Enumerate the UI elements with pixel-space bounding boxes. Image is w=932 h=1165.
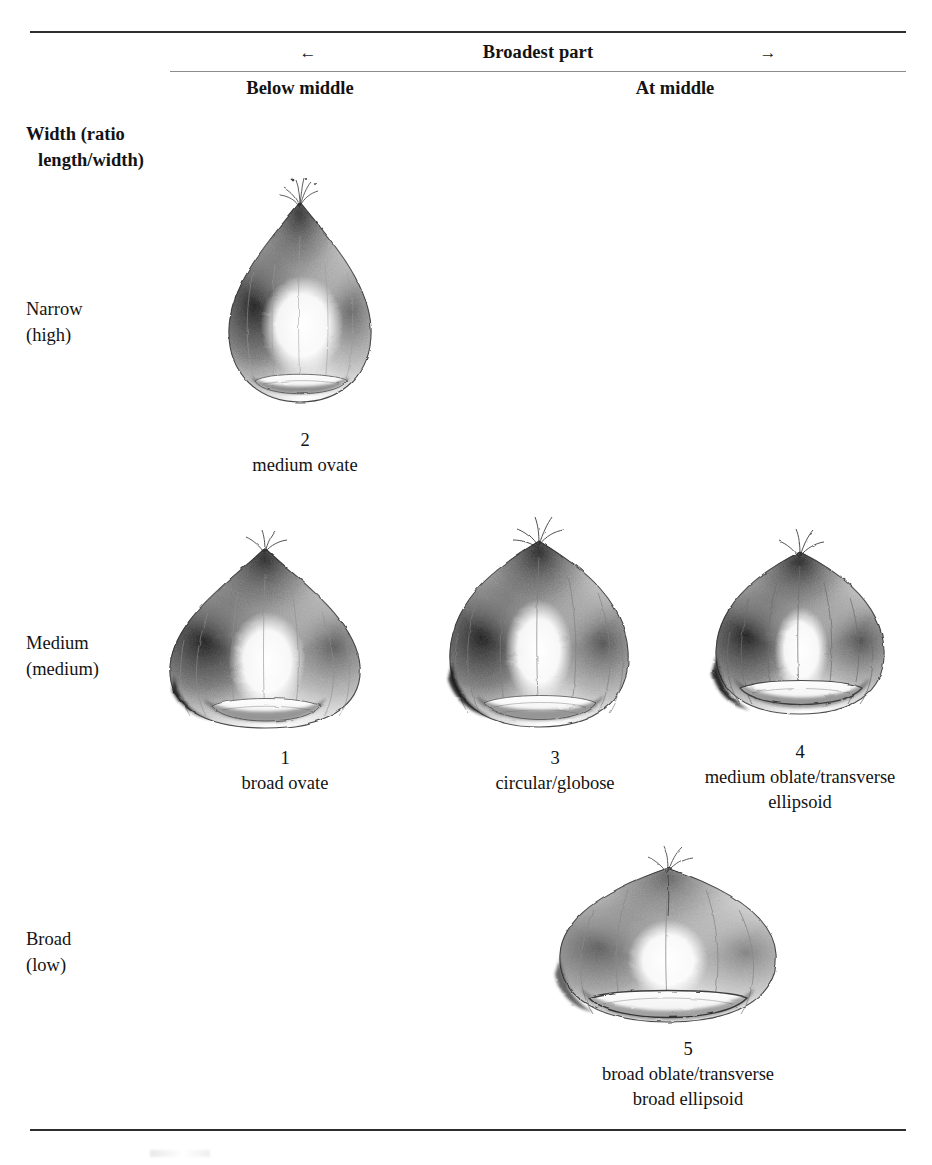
table-bottom-rule [30, 1129, 906, 1131]
scan-edge-artifact [150, 1150, 210, 1157]
figure-2-chestnut-medium-ovate [205, 176, 395, 426]
row-label-broad-qualifier: (low) [26, 952, 186, 978]
figure-5-name-line1: broad oblate/transverse [560, 1062, 816, 1087]
right-arrow-icon: → [708, 44, 828, 61]
figure-5-chestnut-broad-oblate [543, 846, 793, 1041]
chestnut-nut-illustration [150, 530, 380, 750]
figure-4-number: 4 [672, 740, 928, 765]
table-top-rule [30, 31, 906, 33]
table-spanner-rule [170, 71, 906, 72]
figure-3-caption: 3 circular/globose [440, 746, 670, 796]
figure-2-caption: 2 medium ovate [185, 428, 425, 478]
row-label-broad: Broad (low) [26, 926, 186, 978]
figure-1-caption: 1 broad ovate [165, 746, 405, 796]
figure-4-name-line2: ellipsoid [672, 790, 928, 815]
reference-table-figure: ← Broadest part → Below middle At middle… [0, 0, 932, 1165]
figure-4-caption: 4 medium oblate/transverse ellipsoid [672, 740, 928, 815]
stub-header: Width (ratio length/width) [26, 121, 186, 173]
row-label-narrow: Narrow (high) [26, 296, 186, 348]
chestnut-nut-illustration [432, 515, 647, 750]
spanner-header-label: Broadest part [368, 43, 708, 62]
figure-4-name-line1: medium oblate/transverse [672, 765, 928, 790]
row-label-narrow-text: Narrow [26, 299, 83, 319]
figure-3-name: circular/globose [440, 771, 670, 796]
column-header-at-middle: At middle [560, 79, 790, 98]
figure-2-number: 2 [185, 428, 425, 453]
stub-header-line2: length/width) [26, 147, 186, 173]
row-label-narrow-qualifier: (high) [26, 322, 186, 348]
figure-5-name-line2: broad ellipsoid [560, 1087, 816, 1112]
figure-1-chestnut-broad-ovate [150, 530, 380, 750]
stub-header-line1: Width (ratio [26, 124, 125, 144]
figure-3-number: 3 [440, 746, 670, 771]
row-label-broad-text: Broad [26, 929, 71, 949]
figure-1-number: 1 [165, 746, 405, 771]
figure-5-caption: 5 broad oblate/transverse broad ellipsoi… [560, 1037, 816, 1112]
left-arrow-icon: ← [248, 44, 368, 61]
figure-5-number: 5 [560, 1037, 816, 1062]
spanner-header: ← Broadest part → [170, 40, 906, 64]
chestnut-nut-illustration [543, 846, 793, 1041]
chestnut-nut-illustration [700, 528, 900, 738]
figure-4-chestnut-medium-oblate [700, 528, 900, 738]
figure-2-name: medium ovate [185, 453, 425, 478]
figure-3-chestnut-circular-globose [432, 515, 647, 750]
column-header-below-middle: Below middle [190, 79, 410, 98]
row-label-medium-text: Medium [26, 633, 89, 653]
figure-1-name: broad ovate [165, 771, 405, 796]
chestnut-nut-illustration [205, 176, 395, 426]
